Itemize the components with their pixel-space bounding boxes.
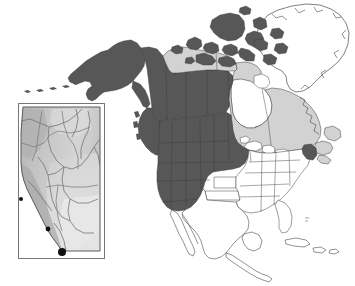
alaska-panhandle[interactable] (132, 81, 150, 108)
unshaded-state-oklahoma[interactable] (205, 191, 240, 200)
nova-scotia[interactable] (317, 155, 331, 164)
alberta-southeast-light (60, 195, 100, 251)
aleutian-islands (24, 82, 79, 93)
map-detail-ticks (305, 218, 309, 221)
site-marker-icon[interactable] (58, 248, 66, 256)
region-caribbean[interactable] (285, 238, 339, 254)
yucatan-peninsula[interactable] (242, 232, 262, 251)
foxe-basin (254, 74, 270, 88)
region-alaska[interactable] (68, 40, 145, 101)
boundary-marker-upper-icon[interactable] (19, 197, 23, 201)
region-central-america[interactable] (226, 253, 272, 282)
alberta-inset-map[interactable] (18, 103, 105, 259)
boundary-marker-mid-icon[interactable] (46, 227, 51, 232)
alberta-inset-panel[interactable] (18, 103, 105, 259)
newfoundland[interactable] (324, 126, 341, 141)
florida-peninsula[interactable] (275, 200, 292, 233)
map-figure (0, 0, 355, 286)
unshaded-state-kansas[interactable] (214, 177, 236, 188)
